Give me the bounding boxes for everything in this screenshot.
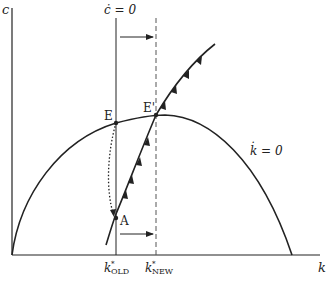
svg-text:OLD: OLD xyxy=(111,267,129,276)
point-E xyxy=(114,121,118,125)
label-E: E xyxy=(104,109,113,123)
point-A xyxy=(114,216,118,220)
label-A: A xyxy=(119,214,129,228)
x-axis-label: k xyxy=(318,260,326,275)
jump-path xyxy=(108,123,116,216)
phase-diagram: c k ċ = 0 k̇ = 0 E E' A k * OLD k * NEW xyxy=(0,0,331,283)
y-axis-label: c xyxy=(2,2,10,17)
saddle-path-arrows xyxy=(122,56,202,199)
label-E-prime: E' xyxy=(143,101,155,115)
k-dot-zero-label: k̇ = 0 xyxy=(250,141,283,158)
c-dot-zero-label: ċ = 0 xyxy=(104,3,136,17)
svg-text:NEW: NEW xyxy=(152,267,174,276)
tick-k-old: k * OLD xyxy=(104,260,129,276)
tick-k-new: k * NEW xyxy=(145,260,174,276)
